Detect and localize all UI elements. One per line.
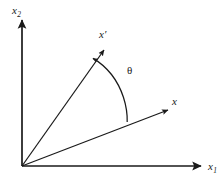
vector-rotation-figure: x2 x1 x′ x⃗ θ xyxy=(0,0,224,182)
theta-arc-path xyxy=(93,58,127,122)
theta-angle-label: θ xyxy=(127,65,132,76)
x-vector-line xyxy=(22,110,168,166)
x-prime-vector-label: x′ xyxy=(99,29,106,40)
x1-axis-label: x1 xyxy=(208,161,217,172)
x2-axis-label-subscript: 2 xyxy=(17,10,21,19)
vector-diagram-canvas xyxy=(0,0,224,182)
x-prime-vector-line xyxy=(22,50,104,166)
x1-axis-label-subscript: 1 xyxy=(213,166,217,175)
x-vector-label: x⃗ xyxy=(172,96,185,107)
x2-axis-label: x2 xyxy=(12,5,21,16)
